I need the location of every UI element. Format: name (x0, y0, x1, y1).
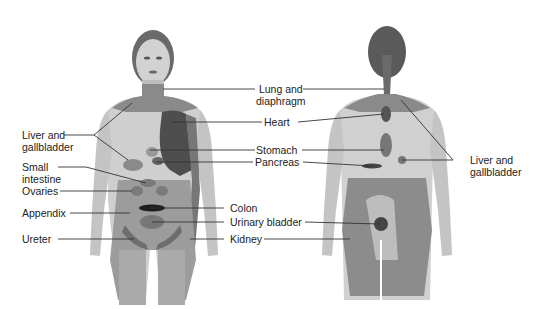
label-colon: Colon (230, 202, 257, 214)
label-stomach: Stomach (256, 144, 297, 156)
front-figure (90, 30, 218, 305)
label-urinary-bladder: Urinary bladder (230, 216, 302, 228)
label-pancreas: Pancreas (255, 156, 299, 168)
label-ovaries: Ovaries (22, 185, 58, 197)
label-liver-gallbladder-front: Liver and gallbladder (22, 129, 73, 153)
label-kidney: Kidney (230, 233, 262, 245)
label-small-intestine: Small intestine (22, 161, 61, 185)
label-lung-diaphragm: Lung and diaphragm (256, 83, 306, 107)
label-liver-gallbladder-back: Liver and gallbladder (470, 154, 521, 178)
label-heart: Heart (264, 116, 290, 128)
label-appendix: Appendix (22, 207, 66, 219)
label-ureter: Ureter (22, 233, 51, 245)
